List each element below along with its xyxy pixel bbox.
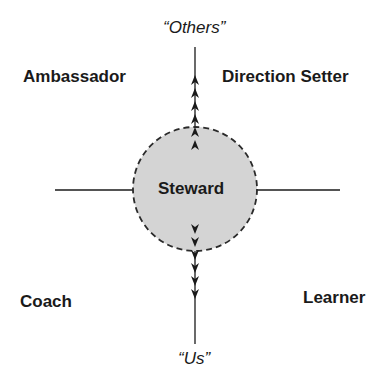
quadrant-coach: Coach bbox=[20, 292, 72, 312]
axis-label-others: “Others” bbox=[163, 18, 225, 38]
center-label-steward: Steward bbox=[158, 179, 224, 199]
quadrant-learner: Learner bbox=[303, 288, 365, 308]
axis-label-us: “Us” bbox=[178, 349, 210, 369]
quadrant-direction-setter: Direction Setter bbox=[222, 67, 349, 87]
quadrant-ambassador: Ambassador bbox=[23, 67, 126, 87]
